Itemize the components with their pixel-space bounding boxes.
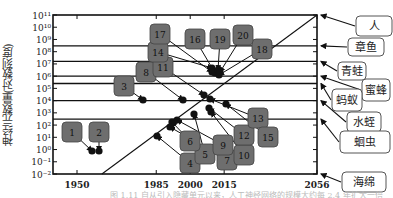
- data-point: [216, 68, 223, 75]
- y-tick-label: 10⁶: [36, 72, 51, 82]
- point-label: 19: [214, 35, 226, 45]
- y-tick-label: 10⁸: [36, 47, 51, 57]
- point-label: 20: [237, 31, 249, 41]
- y-tick-label: 10²: [36, 121, 51, 131]
- organism-legend: 人章鱼青蛙蜜蜂蚂蚁水蛭蛔虫海绵: [321, 15, 392, 192]
- point-label: 4: [187, 159, 193, 169]
- data-point: [139, 96, 146, 103]
- figure-caption: 图 1.11 自从引入隐藏单元以来，人工神经网络的规模大约每 2.4 年扩大一倍: [110, 189, 390, 198]
- point-label: 11: [157, 63, 168, 73]
- data-point: [200, 91, 207, 98]
- y-tick-label: 10¹⁰: [32, 23, 51, 33]
- point-label: 17: [154, 30, 166, 40]
- organism-label: 章鱼: [355, 40, 377, 54]
- point-label: 10: [238, 151, 250, 161]
- organism-label: 蜜蜂: [365, 83, 387, 97]
- data-point: [95, 147, 102, 154]
- organism-label: 水蛭: [353, 116, 375, 129]
- point-label: 5: [202, 150, 208, 160]
- data-point: [166, 123, 173, 130]
- point-label: 3: [121, 82, 127, 92]
- chart-canvas: 10⁻²10⁻¹10⁰10¹10²10³10⁴10⁵10⁶10⁷10⁸10⁹10…: [0, 0, 393, 198]
- data-point: [190, 110, 197, 117]
- point-label: 8: [143, 68, 149, 78]
- y-tick-label: 10⁰: [36, 145, 51, 155]
- data-point: [205, 104, 212, 111]
- data-point: [153, 132, 160, 139]
- data-point: [88, 147, 95, 154]
- y-tick-label: 10⁻¹: [31, 157, 51, 167]
- y-axis: 10⁻²10⁻¹10⁰10¹10²10³10⁴10⁵10⁶10⁷10⁸10⁹10…: [31, 11, 317, 180]
- y-tick-label: 10¹: [36, 133, 51, 143]
- organism-label: 蚂蚁: [336, 94, 358, 107]
- organism-label: 青蛙: [341, 65, 363, 78]
- point-label: 6: [187, 137, 193, 147]
- point-label: 9: [220, 141, 226, 151]
- point-label: 16: [189, 35, 201, 45]
- data-point: [222, 100, 229, 107]
- data-point: [206, 95, 213, 102]
- point-label: 13: [252, 114, 264, 124]
- y-tick-label: 10³: [36, 108, 51, 118]
- point-label: 14: [152, 48, 164, 58]
- y-tick-label: 10⁻²: [31, 170, 51, 180]
- data-point: [173, 116, 180, 123]
- y-tick-label: 10⁵: [36, 84, 51, 94]
- organism-label: 人: [369, 20, 380, 33]
- y-tick-label: 10⁹: [36, 35, 51, 45]
- y-axis-label: 神经元数量(对数刻度): [1, 20, 23, 170]
- point-label: 2: [96, 128, 102, 138]
- organism-label: 蛔虫: [354, 136, 376, 149]
- x-tick-label: 1950: [64, 180, 89, 190]
- y-tick-label: 10⁷: [36, 59, 51, 69]
- organism-label: 海绵: [353, 175, 375, 189]
- y-tick-label: 10⁴: [36, 96, 51, 106]
- data-points: [88, 64, 229, 154]
- point-label: 12: [238, 131, 249, 141]
- y-tick-label: 10¹¹: [32, 11, 51, 21]
- point-label: 7: [224, 156, 230, 166]
- point-label: 15: [262, 133, 274, 143]
- point-label: 18: [256, 45, 268, 55]
- data-point: [179, 96, 186, 103]
- point-label: 1: [69, 128, 75, 138]
